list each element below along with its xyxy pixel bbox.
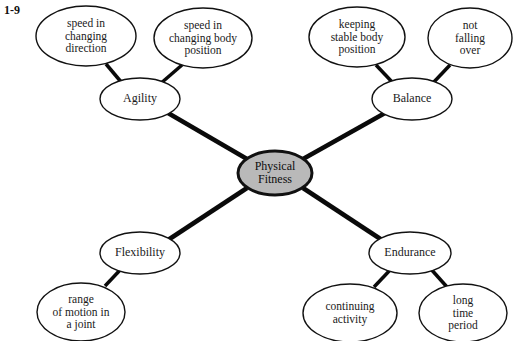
node-keeping-stable-body-position [309, 7, 405, 67]
node-balance [372, 78, 452, 120]
node-continuing-activity [303, 284, 397, 341]
node-speed-in-changing-direction [36, 6, 136, 66]
node-not-falling-over [428, 8, 512, 68]
nodes-group [36, 6, 512, 341]
node-long-time-period [419, 284, 507, 341]
diagram-canvas [0, 0, 514, 341]
node-flexibility [100, 232, 180, 274]
edge-center-endurance [303, 188, 382, 240]
edge-center-flexibility [168, 188, 247, 240]
node-speed-in-changing-body-position [154, 8, 252, 68]
node-agility [100, 78, 180, 120]
node-range-of-motion-in-a-joint [37, 283, 125, 341]
edge-center-balance [303, 113, 385, 159]
edge-center-agility [168, 113, 247, 159]
node-endurance [369, 232, 451, 274]
figure-number-label: 1-9 [4, 3, 20, 18]
concept-map-figure: 1-9 speed inchangingdirectionspeed incha… [0, 0, 514, 341]
node-physical-fitness [238, 151, 312, 195]
